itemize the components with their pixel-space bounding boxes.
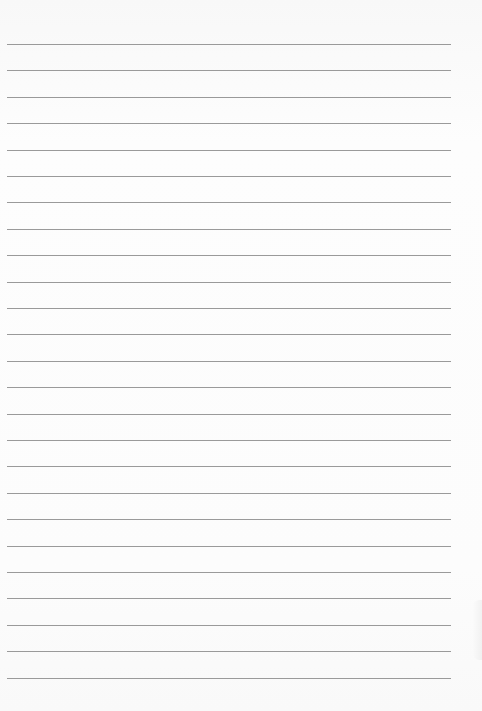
ruled-line: [7, 308, 451, 309]
ruled-line: [7, 123, 451, 124]
ruled-line: [7, 176, 451, 177]
ruled-line: [7, 546, 451, 547]
page-edge-shadow: [472, 600, 482, 660]
ruled-line: [7, 519, 451, 520]
ruled-line: [7, 150, 451, 151]
ruled-line: [7, 334, 451, 335]
ruled-line: [7, 572, 451, 573]
ruled-line: [7, 466, 451, 467]
ruled-line: [7, 598, 451, 599]
ruled-line: [7, 44, 451, 45]
ruled-line: [7, 651, 451, 652]
ruled-line: [7, 70, 451, 71]
ruled-line: [7, 361, 451, 362]
ruled-line: [7, 229, 451, 230]
ruled-line: [7, 493, 451, 494]
ruled-line: [7, 255, 451, 256]
ruled-line: [7, 282, 451, 283]
ruled-line: [7, 440, 451, 441]
ruled-line: [7, 202, 451, 203]
lined-paper-sheet: [0, 0, 482, 711]
ruled-line: [7, 387, 451, 388]
ruled-line: [7, 625, 451, 626]
ruled-line: [7, 414, 451, 415]
ruled-line: [7, 678, 451, 679]
ruled-line: [7, 97, 451, 98]
